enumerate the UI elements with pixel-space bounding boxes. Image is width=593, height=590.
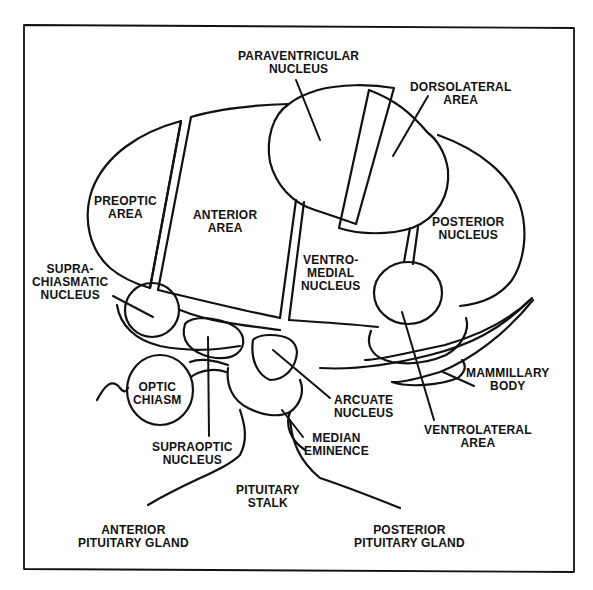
label-posterior-pituitary-gland: POSTERIOR PITUITARY GLAND <box>354 524 465 550</box>
label-suprachiasmatic-nucleus: SUPRA- CHIASMATIC NUCLEUS <box>32 263 108 302</box>
label-dorsolateral-area: DORSOLATERAL AREA <box>410 81 512 107</box>
label-anterior-pituitary-gland: ANTERIOR PITUITARY GLAND <box>78 524 189 550</box>
divider-ventrolateral-stalk <box>404 227 418 264</box>
label-preoptic-area: PREOPTIC AREA <box>94 195 157 221</box>
leader-supraoptic <box>208 337 209 436</box>
label-optic-chiasm: OPTIC CHIASM <box>133 381 182 407</box>
label-mammillary-body: MAMMILLARY BODY <box>466 367 550 393</box>
label-supraoptic-nucleus: SUPRAOPTIC NUCLEUS <box>152 441 233 467</box>
label-arcuate-nucleus: ARCUATE NUCLEUS <box>334 394 393 420</box>
label-ventrolateral-area: VENTROLATERAL AREA <box>424 424 532 450</box>
ventrolateral-area-shape <box>374 262 442 324</box>
label-posterior-nucleus: POSTERIOR NUCLEUS <box>432 216 504 242</box>
label-paraventricular-nucleus: PARAVENTRICULAR NUCLEUS <box>238 50 359 76</box>
arcuate-nucleus-shape <box>252 335 297 380</box>
optic-nerve-left <box>97 383 128 400</box>
ventromedial-lower-edge <box>289 320 378 327</box>
median-eminence-shape <box>228 368 302 415</box>
dorsolateral-area-shape <box>339 90 448 233</box>
leader-paraventricular <box>296 80 320 140</box>
mammillary-lobe <box>369 318 467 363</box>
suprachiasmatic-nucleus-shape <box>125 283 179 337</box>
label-median-eminence: MEDIAN EMINENCE <box>304 432 369 458</box>
label-anterior-area: ANTERIOR AREA <box>193 209 257 235</box>
label-pituitary-stalk: PITUITARY STALK <box>236 484 300 510</box>
paraventricular-nucleus-shape <box>269 85 394 224</box>
leader-ventrolateral <box>402 312 434 420</box>
label-ventromedial-nucleus: VENTRO- MEDIAL NUCLEUS <box>301 254 360 293</box>
